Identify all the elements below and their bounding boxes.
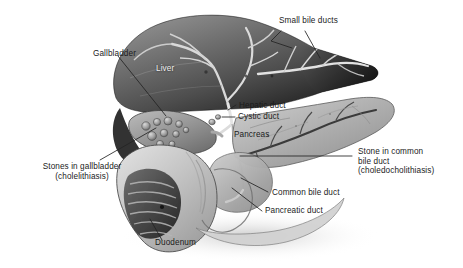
- stone-in-neck: [209, 119, 215, 125]
- label-pancreatic-duct: Pancreatic duct: [265, 206, 323, 216]
- label-stone-in-common-bile-duct-line2: bile duct: [358, 157, 434, 167]
- label-stone-in-common-bile-duct-line3: (choledocholithiasis): [358, 166, 434, 176]
- label-hepatic-duct: Hepatic duct: [239, 101, 286, 111]
- label-pancreas: Pancreas: [234, 130, 269, 140]
- label-gallbladder: Gallbladder: [93, 49, 136, 59]
- label-liver: Liver: [156, 64, 174, 74]
- anatomy-illustration: [0, 0, 463, 268]
- liver-organ: [114, 15, 378, 112]
- label-stone-in-common-bile-duct-line1: Stone in common: [358, 147, 434, 157]
- label-duodenum: Duodenum: [155, 238, 196, 248]
- label-stones-in-gallbladder: Stones in gallbladder (cholelithiasis): [24, 162, 140, 181]
- duodenal-papilla: [160, 205, 164, 209]
- label-small-bile-ducts: Small bile ducts: [279, 16, 338, 26]
- label-stone-in-common-bile-duct: Stone in common bile duct (choledocholit…: [358, 147, 434, 176]
- anatomy-figure: Small bile ducts Gallbladder Liver Hepat…: [0, 0, 463, 268]
- label-cystic-duct: Cystic duct: [238, 112, 279, 122]
- label-common-bile-duct: Common bile duct: [272, 188, 340, 198]
- stone-in-neck-2: [215, 115, 220, 120]
- label-stones-in-gallbladder-line1: Stones in gallbladder: [24, 162, 140, 172]
- label-stones-in-gallbladder-line2: (cholelithiasis): [24, 172, 140, 182]
